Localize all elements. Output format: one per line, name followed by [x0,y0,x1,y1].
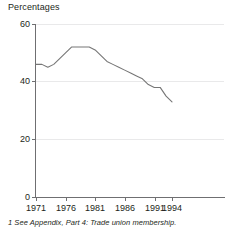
chart-figure: Percentages 60 40 20 0 1971 1976 1981 19… [0,0,235,235]
footnote-text: 1 See Appendix, Part 4: Trade union memb… [8,218,176,227]
series-layer [0,0,235,235]
series-line-trade-union-membership [36,47,172,102]
